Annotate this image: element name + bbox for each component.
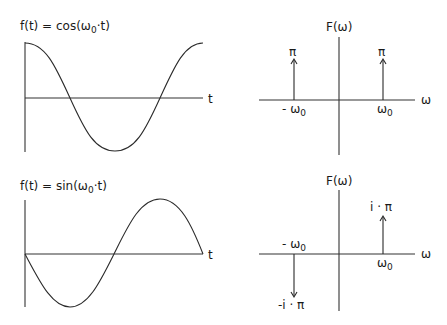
sin-time-title: f(t) = sin(ω0·t) bbox=[20, 179, 107, 195]
sin-time-panel: f(t) = sin(ω0·t) t bbox=[20, 179, 213, 307]
cos-time-x-label: t bbox=[208, 92, 213, 106]
cos-time-panel: f(t) = cos(ω0·t) t bbox=[20, 19, 213, 152]
cos-neg-impulse-label: π bbox=[289, 45, 296, 59]
sin-neg-omega0-label: - ω0 bbox=[282, 237, 306, 253]
cos-waveform bbox=[25, 43, 203, 151]
cos-neg-omega0-label: - ω0 bbox=[282, 102, 306, 118]
cos-pos-omega0-label: ω0 bbox=[377, 102, 393, 118]
sin-freq-panel: F(ω) ω -i · π i · π - ω0 ω0 bbox=[259, 174, 431, 312]
sin-neg-impulse-label: -i · π bbox=[278, 298, 304, 312]
sin-pos-omega0-label: ω0 bbox=[377, 256, 393, 272]
cos-pos-impulse-label: π bbox=[378, 45, 385, 59]
sin-freq-title: F(ω) bbox=[326, 174, 352, 188]
cos-time-title: f(t) = cos(ω0·t) bbox=[20, 19, 110, 35]
cos-freq-panel: F(ω) ω π π - ω0 ω0 bbox=[259, 20, 431, 155]
sin-waveform bbox=[25, 199, 203, 307]
cos-freq-title: F(ω) bbox=[326, 20, 352, 34]
fourier-transform-diagram: f(t) = cos(ω0·t) t F(ω) ω π π - ω0 ω0 f(… bbox=[0, 0, 447, 325]
sin-pos-impulse-label: i · π bbox=[370, 200, 392, 214]
sin-time-x-label: t bbox=[208, 248, 213, 262]
cos-freq-x-label: ω bbox=[421, 93, 431, 107]
sin-freq-x-label: ω bbox=[421, 247, 431, 261]
